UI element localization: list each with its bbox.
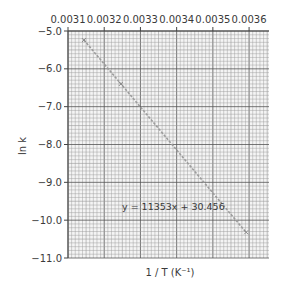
y-tick-label: −7.0 <box>38 101 62 112</box>
y-axis-label: ln k <box>17 137 28 155</box>
x-tick-label: 0.0036 <box>232 14 267 25</box>
x-tick-label: 0.0033 <box>123 14 158 25</box>
x-tick-label: 0.0035 <box>195 14 230 25</box>
y-tick-label: −10.0 <box>31 215 62 226</box>
x-tick-label: 0.0031 <box>51 14 86 25</box>
trendline-equation: y = 11353x + 30.456 <box>122 201 225 212</box>
x-tick-label: 0.0034 <box>159 14 194 25</box>
y-tick-label: −5.0 <box>38 26 62 37</box>
arrhenius-plot: 0.00310.00320.00330.00340.00350.0036 −5.… <box>0 0 281 284</box>
y-tick-label: −9.0 <box>38 177 62 188</box>
x-axis-label: 1 / T (K⁻¹) <box>145 267 194 278</box>
y-tick-label: −6.0 <box>38 63 62 74</box>
y-tick-label: −11.0 <box>31 253 62 264</box>
x-tick-labels: 0.00310.00320.00330.00340.00350.0036 <box>51 14 267 25</box>
y-tick-label: −8.0 <box>38 139 62 150</box>
y-tick-labels: −5.0−6.0−7.0−8.0−9.0−10.0−11.0 <box>31 26 62 264</box>
x-tick-label: 0.0032 <box>87 14 122 25</box>
